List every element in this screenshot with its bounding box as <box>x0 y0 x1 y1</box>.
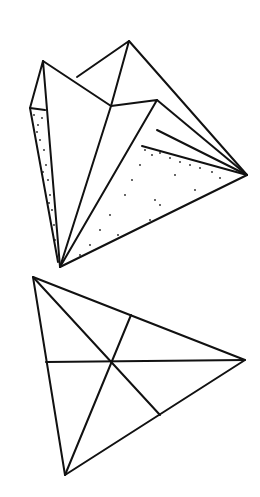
folded-paper-figure <box>30 41 247 267</box>
diagram-canvas <box>0 0 260 497</box>
shading-right <box>79 149 221 256</box>
triangle-medians-figure <box>33 277 245 475</box>
